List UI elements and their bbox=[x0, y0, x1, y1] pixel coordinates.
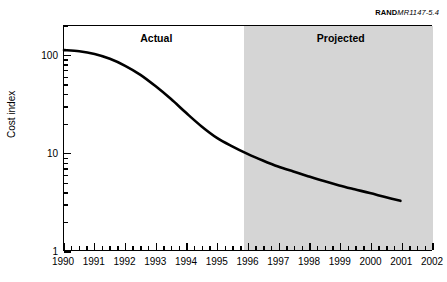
x-tick-minor bbox=[302, 246, 303, 250]
x-tick-minor bbox=[148, 246, 149, 250]
y-tick-minor bbox=[64, 64, 68, 65]
x-tick-minor bbox=[317, 246, 318, 250]
x-tick-minor bbox=[232, 246, 233, 250]
x-tick-major bbox=[186, 243, 187, 250]
y-tick-label: 100 bbox=[41, 49, 58, 60]
x-tick-minor bbox=[179, 246, 180, 250]
x-tick-major bbox=[432, 243, 433, 250]
y-tick-label: 10 bbox=[47, 147, 58, 158]
x-tick-minor bbox=[209, 246, 210, 250]
x-tick-major bbox=[217, 243, 218, 250]
x-tick-major bbox=[371, 243, 372, 250]
x-tick-minor bbox=[86, 246, 87, 250]
y-tick-minor bbox=[64, 25, 68, 26]
x-tick-major bbox=[340, 243, 341, 250]
y-tick-minor bbox=[64, 84, 68, 85]
y-tick-minor bbox=[64, 192, 68, 193]
x-tick-minor bbox=[409, 246, 410, 250]
x-tick-label: 1994 bbox=[175, 256, 197, 267]
y-tick-major bbox=[64, 153, 71, 154]
x-tick-label: 1991 bbox=[83, 256, 105, 267]
x-tick-label: 1998 bbox=[298, 256, 320, 267]
x-tick-minor bbox=[286, 246, 287, 250]
x-tick-minor bbox=[263, 246, 264, 250]
x-tick-major bbox=[94, 243, 95, 250]
x-tick-label: 1995 bbox=[206, 256, 228, 267]
x-tick-label: 1992 bbox=[113, 256, 135, 267]
y-axis-title: Cost index bbox=[6, 91, 17, 138]
x-tick-label-group: 1990199119921993199419951996199719981999… bbox=[63, 256, 432, 272]
y-tick-minor bbox=[64, 94, 68, 95]
region-label-actual: Actual bbox=[140, 32, 172, 44]
x-tick-minor bbox=[79, 246, 80, 250]
x-tick-minor bbox=[355, 246, 356, 250]
x-tick-minor bbox=[132, 246, 133, 250]
y-tick-minor bbox=[64, 70, 68, 71]
x-tick-label: 1990 bbox=[52, 256, 74, 267]
x-tick-minor bbox=[394, 246, 395, 250]
x-tick-label: 2001 bbox=[390, 256, 412, 267]
plot-area: ActualProjected bbox=[63, 25, 432, 251]
x-tick-minor bbox=[386, 246, 387, 250]
x-tick-minor bbox=[425, 246, 426, 250]
y-tick-label: 1 bbox=[52, 246, 58, 257]
y-tick-minor bbox=[64, 204, 68, 205]
source-credit-report-number: MR1147-5.4 bbox=[397, 8, 439, 17]
y-tick-minor bbox=[64, 124, 68, 125]
y-tick-major bbox=[64, 55, 71, 56]
figure-container: RANDMR1147-5.4 Cost index 110100 ActualP… bbox=[0, 0, 447, 282]
y-tick-minor bbox=[64, 106, 68, 107]
x-tick-major bbox=[125, 243, 126, 250]
x-tick-minor bbox=[102, 246, 103, 250]
x-tick-minor bbox=[294, 246, 295, 250]
x-tick-major bbox=[309, 243, 310, 250]
x-tick-minor bbox=[240, 246, 241, 250]
x-tick-minor bbox=[225, 246, 226, 250]
y-tick-label-group: 110100 bbox=[30, 25, 58, 251]
cost-index-curve-svg bbox=[64, 26, 431, 250]
x-tick-minor bbox=[117, 246, 118, 250]
x-tick-minor bbox=[271, 246, 272, 250]
x-tick-label: 1997 bbox=[267, 256, 289, 267]
x-tick-major bbox=[63, 243, 64, 250]
x-tick-label: 1999 bbox=[329, 256, 351, 267]
y-tick-minor bbox=[64, 175, 68, 176]
x-tick-minor bbox=[378, 246, 379, 250]
x-tick-major bbox=[248, 243, 249, 250]
source-credit: RANDMR1147-5.4 bbox=[375, 8, 439, 17]
x-tick-minor bbox=[71, 246, 72, 250]
x-tick-label: 1993 bbox=[144, 256, 166, 267]
x-tick-minor bbox=[255, 246, 256, 250]
x-tick-label: 2000 bbox=[359, 256, 381, 267]
region-label-projected: Projected bbox=[317, 32, 365, 44]
x-tick-minor bbox=[417, 246, 418, 250]
y-tick-minor bbox=[64, 222, 68, 223]
x-tick-label: 1996 bbox=[236, 256, 258, 267]
x-tick-label: 2002 bbox=[421, 256, 443, 267]
x-tick-minor bbox=[171, 246, 172, 250]
y-tick-minor bbox=[64, 59, 68, 60]
x-tick-major bbox=[402, 243, 403, 250]
y-tick-minor bbox=[64, 163, 68, 164]
y-tick-minor bbox=[64, 77, 68, 78]
y-tick-minor bbox=[64, 183, 68, 184]
x-tick-minor bbox=[194, 246, 195, 250]
x-tick-minor bbox=[332, 246, 333, 250]
x-tick-minor bbox=[163, 246, 164, 250]
x-tick-minor bbox=[363, 246, 364, 250]
x-tick-minor bbox=[140, 246, 141, 250]
x-tick-major bbox=[279, 243, 280, 250]
cost-index-line bbox=[64, 50, 400, 201]
x-tick-minor bbox=[202, 246, 203, 250]
source-credit-rand: RAND bbox=[375, 8, 397, 17]
x-tick-minor bbox=[109, 246, 110, 250]
x-tick-minor bbox=[348, 246, 349, 250]
x-tick-major bbox=[156, 243, 157, 250]
y-tick-minor bbox=[64, 168, 68, 169]
y-tick-major bbox=[64, 251, 71, 252]
x-tick-minor bbox=[325, 246, 326, 250]
y-tick-minor bbox=[64, 158, 68, 159]
